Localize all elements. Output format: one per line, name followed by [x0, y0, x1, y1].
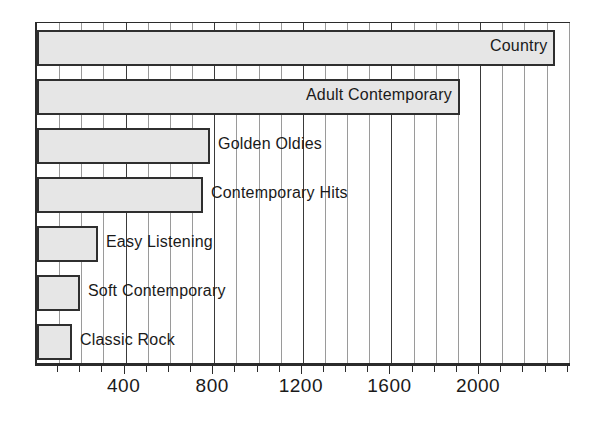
gridline-minor — [458, 23, 459, 363]
bar-label: Golden Oldies — [218, 136, 322, 152]
x-tick-major — [301, 365, 302, 374]
bar-label: Easy Listening — [106, 234, 213, 250]
x-tick-label: 1600 — [367, 376, 411, 395]
x-tick-minor — [234, 365, 235, 372]
bar[interactable] — [37, 226, 98, 262]
bar-label: Contemporary Hits — [211, 185, 348, 201]
x-tick-minor — [323, 365, 324, 372]
x-tick-minor — [79, 365, 80, 372]
x-tick-label: 800 — [196, 376, 229, 395]
bar-label: Adult Contemporary — [306, 87, 452, 103]
x-tick-minor — [456, 365, 457, 372]
x-tick-minor — [279, 365, 280, 372]
x-tick-minor — [101, 365, 102, 372]
gridline-minor — [569, 23, 570, 363]
plot-area: CountryAdult ContemporaryGolden OldiesCo… — [35, 22, 570, 365]
gridline-minor — [414, 23, 415, 363]
x-tick-label: 1200 — [279, 376, 323, 395]
bar[interactable] — [37, 128, 210, 164]
gridline-minor — [369, 23, 370, 363]
x-tick-minor — [57, 365, 58, 372]
x-tick-label: 400 — [107, 376, 140, 395]
bar[interactable] — [37, 30, 555, 66]
bar[interactable] — [37, 275, 80, 311]
bar[interactable] — [37, 324, 72, 360]
x-tick-major — [212, 365, 213, 374]
bar-label: Soft Contemporary — [88, 283, 226, 299]
bar-label: Classic Rock — [80, 332, 175, 348]
x-tick-minor — [500, 365, 501, 372]
horizontal-bar-chart: CountryAdult ContemporaryGolden OldiesCo… — [0, 0, 591, 421]
x-tick-major — [389, 365, 390, 374]
x-tick-minor — [367, 365, 368, 372]
x-tick-minor — [190, 365, 191, 372]
x-tick-major — [478, 365, 479, 374]
bar-label: Country — [490, 38, 547, 54]
bar[interactable] — [37, 177, 203, 213]
x-tick-minor — [434, 365, 435, 372]
x-tick-minor — [146, 365, 147, 372]
gridline-minor — [524, 23, 525, 363]
gridline-major — [480, 23, 481, 363]
x-tick-minor — [257, 365, 258, 372]
x-tick-minor — [345, 365, 346, 372]
x-tick-minor — [522, 365, 523, 372]
x-tick-label: 2000 — [456, 376, 500, 395]
gridline-major — [391, 23, 392, 363]
x-tick-minor — [545, 365, 546, 372]
gridline-minor — [502, 23, 503, 363]
x-axis-line — [35, 364, 570, 366]
x-tick-minor — [412, 365, 413, 372]
x-tick-major — [124, 365, 125, 374]
x-tick-minor — [567, 365, 568, 372]
gridline-minor — [436, 23, 437, 363]
gridline-minor — [547, 23, 548, 363]
x-tick-minor — [168, 365, 169, 372]
